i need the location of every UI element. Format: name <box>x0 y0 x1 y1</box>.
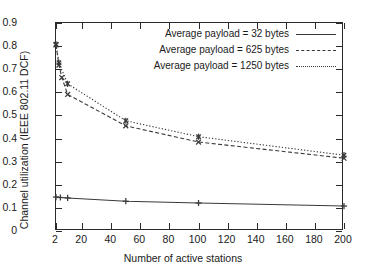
x-tick-label-5: 100 <box>189 233 207 245</box>
marker-0-4 <box>195 200 201 206</box>
x-tick-label-4: 80 <box>163 233 175 245</box>
marker-0-2 <box>65 195 71 201</box>
chart-figure: Channel utilization (IEEE 802.11 DCF) Nu… <box>0 0 366 279</box>
y-tick-label-0: 0 <box>11 224 17 236</box>
y-tick-label-9: 0.9 <box>2 16 17 28</box>
x-tick-label-8: 160 <box>276 233 294 245</box>
legend-label-2: Average payload = 1250 bytes <box>154 60 289 71</box>
legend-entry-2: Average payload = 1250 bytes <box>150 60 336 71</box>
legend-entry-0: Average payload = 32 bytes <box>150 28 336 39</box>
marker-0-5 <box>341 203 347 209</box>
y-tick-label-1: 0.1 <box>2 201 17 213</box>
chart-legend: Average payload = 32 bytesAverage payloa… <box>150 28 336 71</box>
marker-0-3 <box>123 198 129 204</box>
x-tick-label-0: 2 <box>52 233 58 245</box>
y-tick-label-5: 0.5 <box>2 108 17 120</box>
marker-1-2 <box>59 75 64 80</box>
legend-label-1: Average payload = 625 bytes <box>159 44 289 55</box>
x-tick-10 <box>344 223 345 229</box>
series-0 <box>53 194 347 209</box>
x-tick-label-10: 200 <box>334 233 352 245</box>
legend-key-0 <box>296 29 336 38</box>
y-tick-label-4: 0.4 <box>2 132 17 144</box>
y-tick-label-8: 0.8 <box>2 39 17 51</box>
y-tick-label-2: 0.2 <box>2 178 17 190</box>
marker-1-3 <box>65 92 70 97</box>
marker-0-1 <box>57 194 63 200</box>
marker-2-3 <box>124 118 128 124</box>
legend-key-1 <box>296 45 336 54</box>
marker-2-2 <box>65 81 69 87</box>
legend-entry-1: Average payload = 625 bytes <box>150 44 336 55</box>
x-tick-label-1: 20 <box>75 233 87 245</box>
y-tick-0 <box>336 231 342 232</box>
y-tick-label-6: 0.6 <box>2 85 17 97</box>
x-tick-label-6: 120 <box>218 233 236 245</box>
legend-label-0: Average payload = 32 bytes <box>165 28 289 39</box>
x-tick-10 <box>344 23 345 29</box>
x-axis-title: Number of active stations <box>0 252 366 264</box>
legend-key-2 <box>296 61 336 70</box>
y-tick-0 <box>56 231 62 232</box>
y-axis-title: Channel utilization (IEEE 802.11 DCF) <box>18 30 30 250</box>
x-tick-label-3: 60 <box>134 233 146 245</box>
y-tick-label-3: 0.3 <box>2 155 17 167</box>
x-tick-label-7: 140 <box>247 233 265 245</box>
x-tick-label-2: 40 <box>104 233 116 245</box>
x-tick-label-9: 180 <box>305 233 323 245</box>
y-tick-label-7: 0.7 <box>2 62 17 74</box>
series-line-0 <box>56 197 344 206</box>
